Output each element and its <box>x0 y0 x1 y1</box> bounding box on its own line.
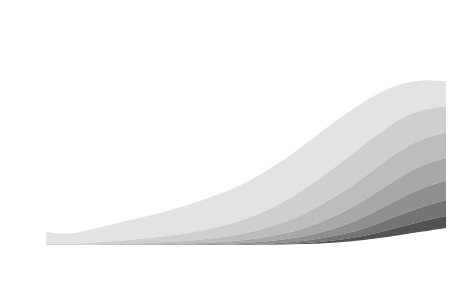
area-bands-group <box>46 16 446 245</box>
chart-canvas <box>0 0 460 304</box>
stacked-area-chart <box>0 0 460 304</box>
